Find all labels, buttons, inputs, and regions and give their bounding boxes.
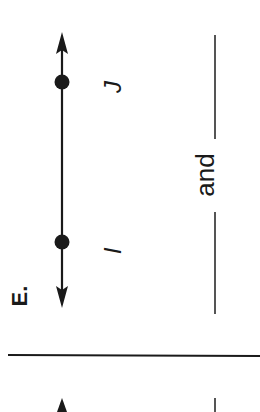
- connector-text: and: [190, 150, 220, 200]
- number-line-figure: [0, 0, 260, 412]
- point-j-dot: [55, 75, 70, 90]
- next-arrow-up-icon: [57, 398, 67, 412]
- point-i-dot: [55, 235, 70, 250]
- problem-label: E.: [8, 284, 32, 308]
- point-label-j: J: [100, 76, 126, 98]
- answer-blank-1[interactable]: [214, 212, 216, 314]
- answer-blank-2[interactable]: [214, 35, 216, 139]
- section-divider: [8, 355, 260, 356]
- worksheet-page: E. J I and: [0, 0, 260, 412]
- point-label-i: I: [100, 240, 126, 262]
